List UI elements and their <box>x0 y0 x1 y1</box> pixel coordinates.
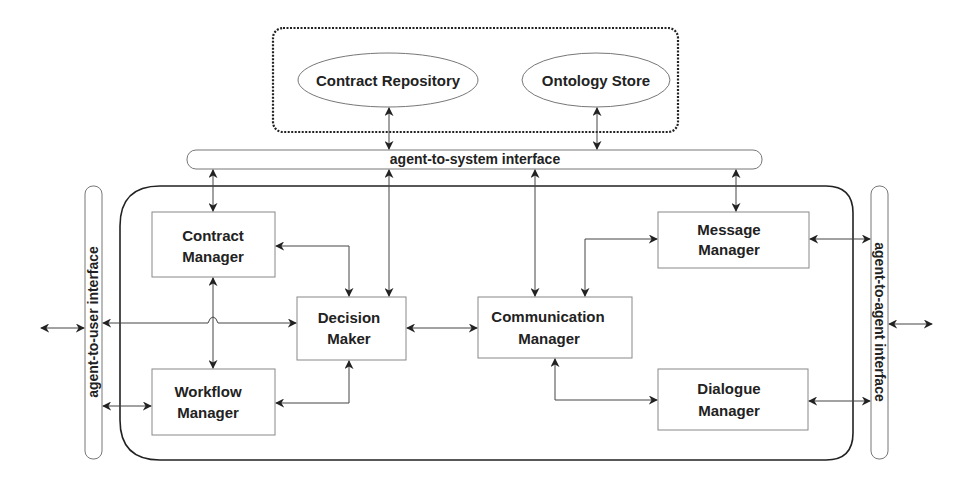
contract-repository-label: Contract Repository <box>316 72 461 89</box>
edge-decision-workflow-manager <box>276 361 349 403</box>
agent-to-user-label: agent-to-user interface <box>85 246 101 398</box>
dialogue-manager-label-line1: Dialogue <box>697 380 760 397</box>
ontology-store-label: Ontology Store <box>542 72 650 89</box>
message-manager-label-line1: Message <box>697 221 760 238</box>
edge-communication-message-manager <box>585 239 657 296</box>
communication-manager-node: Communication Manager <box>478 297 632 358</box>
message-manager-node: Message Manager <box>658 212 809 268</box>
ontology-store-node: Ontology Store <box>522 53 670 107</box>
workflow-manager-label-line2: Manager <box>177 404 239 421</box>
contract-repository-node: Contract Repository <box>298 53 478 107</box>
agent-to-system-label: agent-to-system interface <box>390 151 561 167</box>
decision-maker-label-line1: Decision <box>318 309 381 326</box>
workflow-manager-label-line1: Workflow <box>174 383 242 400</box>
edge-decision-contract-manager <box>276 246 349 296</box>
architecture-diagram: Contract Repository Ontology Store agent… <box>0 0 971 485</box>
dialogue-manager-label-line2: Manager <box>698 402 760 419</box>
contract-manager-label-line2: Manager <box>182 248 244 265</box>
agent-to-agent-interface: agent-to-agent interface <box>871 186 888 459</box>
dialogue-manager-node: Dialogue Manager <box>658 369 808 430</box>
contract-manager-label-line1: Contract <box>182 227 244 244</box>
decision-maker-label-line2: Maker <box>327 330 371 347</box>
workflow-manager-node: Workflow Manager <box>152 369 275 435</box>
agent-to-system-interface: agent-to-system interface <box>187 150 762 169</box>
edge-user-interface-decision-maker <box>103 317 296 323</box>
agent-to-user-interface: agent-to-user interface <box>85 186 102 459</box>
message-manager-label-line2: Manager <box>698 241 760 258</box>
contract-manager-node: Contract Manager <box>152 212 275 277</box>
agent-to-agent-label: agent-to-agent interface <box>872 242 888 402</box>
decision-maker-node: Decision Maker <box>297 297 406 360</box>
edge-communication-dialogue-manager <box>555 359 657 400</box>
communication-manager-label-line1: Communication <box>491 308 604 325</box>
communication-manager-label-line2: Manager <box>518 330 580 347</box>
